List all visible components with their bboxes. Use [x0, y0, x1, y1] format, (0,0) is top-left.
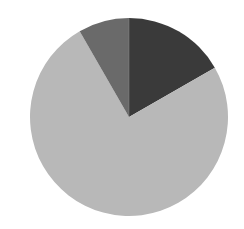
- pie-chart: [0, 0, 244, 229]
